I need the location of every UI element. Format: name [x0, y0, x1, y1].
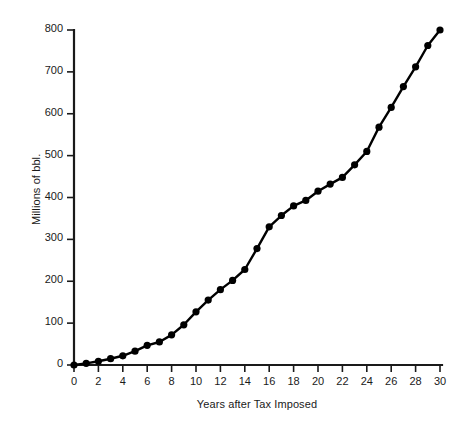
- y-tick-label: 0: [26, 357, 63, 369]
- y-tick-label: 500: [26, 148, 63, 160]
- x-tick-label: 30: [425, 375, 455, 387]
- data-point-marker: [131, 348, 138, 355]
- data-point-marker: [107, 355, 114, 362]
- series-polyline: [74, 30, 440, 365]
- data-point-marker: [70, 361, 77, 368]
- data-point-marker: [253, 245, 260, 252]
- data-point-marker: [95, 358, 102, 365]
- data-point-marker: [412, 63, 419, 70]
- data-point-marker: [278, 212, 285, 219]
- data-point-marker: [241, 266, 248, 273]
- data-point-marker: [192, 308, 199, 315]
- y-tick-label: 800: [26, 22, 63, 34]
- data-point-marker: [424, 42, 431, 49]
- axis-spine: [74, 30, 442, 365]
- axis-lines: [74, 30, 442, 365]
- data-line: [74, 30, 440, 365]
- data-point-marker: [168, 331, 175, 338]
- data-point-marker: [229, 277, 236, 284]
- y-tick-label: 300: [26, 231, 63, 243]
- data-point-marker: [119, 352, 126, 359]
- data-point-marker: [400, 83, 407, 90]
- y-tick-label: 700: [26, 64, 63, 76]
- y-tick-label: 400: [26, 190, 63, 202]
- data-markers: [70, 26, 443, 368]
- data-point-marker: [314, 188, 321, 195]
- data-point-marker: [217, 286, 224, 293]
- data-point-marker: [290, 202, 297, 209]
- y-tick-label: 200: [26, 273, 63, 285]
- data-point-marker: [363, 148, 370, 155]
- y-tick-label: 100: [26, 315, 63, 327]
- data-point-marker: [351, 161, 358, 168]
- data-point-marker: [436, 26, 443, 33]
- data-point-marker: [266, 223, 273, 230]
- chart-figure: Millions of bbl. Years after Tax Imposed…: [0, 0, 465, 429]
- data-point-marker: [144, 342, 151, 349]
- plot-area: [0, 0, 465, 429]
- data-point-marker: [302, 197, 309, 204]
- data-point-marker: [388, 104, 395, 111]
- data-point-marker: [327, 181, 334, 188]
- data-point-marker: [83, 360, 90, 367]
- data-point-marker: [205, 296, 212, 303]
- data-point-marker: [180, 321, 187, 328]
- y-tick-label: 600: [26, 106, 63, 118]
- x-axis-title: Years after Tax Imposed: [137, 398, 377, 410]
- data-point-marker: [375, 124, 382, 131]
- data-point-marker: [156, 338, 163, 345]
- data-point-marker: [339, 174, 346, 181]
